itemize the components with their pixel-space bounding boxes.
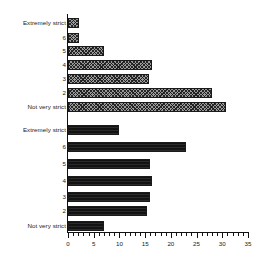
category-label: 6 xyxy=(63,33,67,43)
x-axis-minor-tick xyxy=(202,233,203,236)
category-label: Not very strict xyxy=(27,221,66,231)
x-axis-minor-tick xyxy=(140,233,141,236)
x-axis-tick-label: 20 xyxy=(167,240,174,247)
bar-group2-extremely-strict xyxy=(68,125,119,135)
x-axis-minor-tick xyxy=(191,233,192,236)
x-axis-minor-tick xyxy=(243,233,244,236)
bar-group1-extremely-strict xyxy=(68,18,79,28)
x-axis-minor-tick xyxy=(186,233,187,236)
x-axis-minor-tick xyxy=(166,233,167,236)
x-axis-minor-tick xyxy=(99,233,100,236)
bar-group1-5 xyxy=(68,46,104,56)
x-axis-minor-tick xyxy=(181,233,182,236)
x-axis-minor-tick xyxy=(89,233,90,236)
x-axis-minor-tick xyxy=(73,233,74,236)
x-axis-major-tick xyxy=(145,233,146,238)
bar-group1-6 xyxy=(68,33,79,43)
bar-group1-not-very-strict xyxy=(68,102,226,112)
x-axis-tick-label: 15 xyxy=(142,240,149,247)
x-axis-minor-tick xyxy=(83,233,84,236)
x-axis-minor-tick xyxy=(130,233,131,236)
x-axis-major-tick xyxy=(248,233,249,238)
x-axis-tick-label: 25 xyxy=(193,240,200,247)
x-axis-major-tick xyxy=(119,233,120,238)
category-label: 4 xyxy=(63,60,67,70)
x-axis-tick-label: 30 xyxy=(219,240,226,247)
x-axis-minor-tick xyxy=(104,233,105,236)
category-label: 3 xyxy=(63,74,67,84)
x-axis-major-tick xyxy=(68,233,69,238)
x-axis-minor-tick xyxy=(150,233,151,236)
bar-chart: Extremely strict 6 5 4 3 2 Not very stri… xyxy=(0,0,262,257)
bar-group2-not-very-strict xyxy=(68,221,104,231)
x-axis-minor-tick xyxy=(238,233,239,236)
x-axis-tick-label: 10 xyxy=(116,240,123,247)
x-axis-minor-tick xyxy=(109,233,110,236)
category-label: 5 xyxy=(63,159,67,169)
x-axis-major-tick xyxy=(171,233,172,238)
x-axis-tick-label: 35 xyxy=(245,240,252,247)
bar-group1-2 xyxy=(68,88,212,98)
category-label: Extremely strict xyxy=(23,125,66,135)
x-axis-minor-tick xyxy=(233,233,234,236)
x-axis-minor-tick xyxy=(161,233,162,236)
bar-group2-5 xyxy=(68,159,150,169)
category-label: 4 xyxy=(63,176,67,186)
x-axis-minor-tick xyxy=(78,233,79,236)
x-axis-major-tick xyxy=(222,233,223,238)
category-label: 5 xyxy=(63,46,67,56)
x-axis-minor-tick xyxy=(176,233,177,236)
x-axis-minor-tick xyxy=(217,233,218,236)
bar-group2-3 xyxy=(68,192,150,202)
category-label: 6 xyxy=(63,142,67,152)
x-axis-major-tick xyxy=(197,233,198,238)
x-axis-minor-tick xyxy=(114,233,115,236)
bar-group1-4 xyxy=(68,60,152,70)
x-axis-tick-label: 5 xyxy=(92,240,95,247)
x-axis-minor-tick xyxy=(212,233,213,236)
x-axis-minor-tick xyxy=(207,233,208,236)
x-axis-minor-tick xyxy=(125,233,126,236)
x-axis-major-tick xyxy=(94,233,95,238)
x-axis-minor-tick xyxy=(155,233,156,236)
category-label: 2 xyxy=(63,88,67,98)
bar-group1-3 xyxy=(68,74,149,84)
category-label: 3 xyxy=(63,192,67,202)
category-label: 2 xyxy=(63,206,67,216)
x-axis-minor-tick xyxy=(227,233,228,236)
bar-group2-4 xyxy=(68,176,152,186)
category-label: Extremely strict xyxy=(23,18,66,28)
category-label: Not very strict xyxy=(27,102,66,112)
x-axis-tick-label: 0 xyxy=(66,240,69,247)
plot-area: Extremely strict 6 5 4 3 2 Not very stri… xyxy=(0,0,262,257)
bar-group2-2 xyxy=(68,206,147,216)
x-axis-minor-tick xyxy=(135,233,136,236)
bar-group2-6 xyxy=(68,142,186,152)
